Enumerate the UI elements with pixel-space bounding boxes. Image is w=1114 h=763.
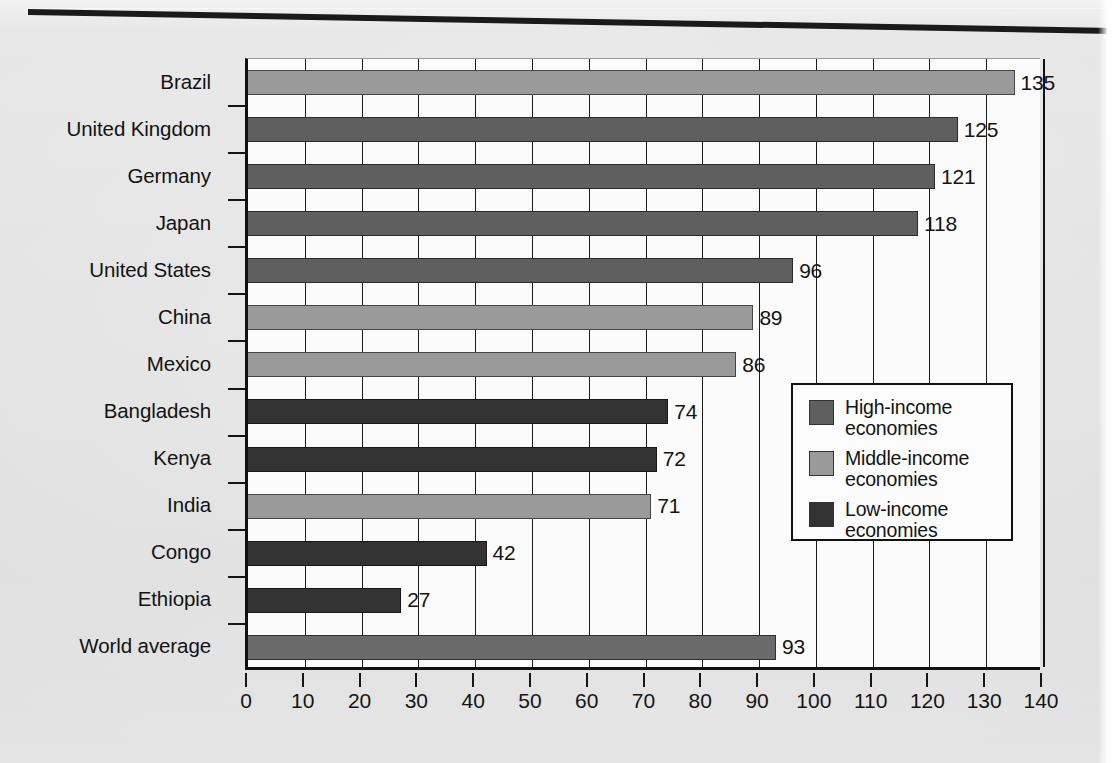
x-axis-tick bbox=[415, 673, 417, 687]
bar-value-label: 86 bbox=[742, 353, 765, 377]
y-axis-category-label: China bbox=[0, 293, 227, 340]
x-axis-tick bbox=[870, 673, 872, 687]
bar[interactable]: 27 bbox=[248, 588, 401, 613]
x-axis-tick bbox=[1040, 673, 1042, 687]
bar-row: 118 bbox=[248, 200, 1040, 247]
bar[interactable]: 96 bbox=[248, 258, 793, 283]
x-axis-tick-label: 90 bbox=[745, 689, 768, 713]
plot-area: 135125121118968986747271422793 bbox=[245, 58, 1040, 670]
y-axis-tick bbox=[228, 529, 245, 531]
x-axis-tick bbox=[359, 673, 361, 687]
x-axis-tick-label: 70 bbox=[632, 689, 655, 713]
x-axis-tick-label: 60 bbox=[575, 689, 598, 713]
bar-value-label: 121 bbox=[941, 165, 975, 189]
x-axis-tick bbox=[472, 673, 474, 687]
y-axis-tick bbox=[228, 388, 245, 390]
y-axis-category-label: India bbox=[0, 482, 227, 529]
bar[interactable]: 86 bbox=[248, 352, 736, 377]
x-axis-tick bbox=[699, 673, 701, 687]
legend-item[interactable]: Low-income economies bbox=[809, 499, 1011, 541]
x-axis-tick-label: 130 bbox=[967, 689, 1002, 713]
bar-value-label: 74 bbox=[674, 400, 697, 424]
x-axis-tick-label: 10 bbox=[291, 689, 314, 713]
x-axis-ticks bbox=[245, 673, 1045, 687]
y-axis-category-label: United States bbox=[0, 246, 227, 293]
x-axis-tick-label: 110 bbox=[854, 689, 887, 713]
bar-value-label: 93 bbox=[782, 635, 805, 659]
bar[interactable]: 72 bbox=[248, 447, 657, 472]
bar-row: 96 bbox=[248, 247, 1040, 294]
bar[interactable]: 42 bbox=[248, 541, 487, 566]
y-axis-tick bbox=[228, 152, 245, 154]
bar[interactable]: 121 bbox=[248, 164, 935, 189]
y-axis-ticks bbox=[228, 58, 245, 670]
bar[interactable]: 118 bbox=[248, 211, 918, 236]
x-axis-tick-labels: 0102030405060708090100110120130140 bbox=[245, 689, 1045, 719]
x-axis-tick-label: 40 bbox=[461, 689, 484, 713]
bar-value-label: 27 bbox=[407, 588, 430, 612]
y-axis-category-label: Brazil bbox=[0, 58, 227, 105]
x-axis-tick bbox=[756, 673, 758, 687]
bar[interactable]: 71 bbox=[248, 494, 651, 519]
y-axis-category-label: Congo bbox=[0, 529, 227, 576]
bar-row: 135 bbox=[248, 59, 1040, 106]
bar-row: 86 bbox=[248, 341, 1040, 388]
y-axis-category-label: Kenya bbox=[0, 435, 227, 482]
bar[interactable]: 74 bbox=[248, 399, 668, 424]
bar-rows: 135125121118968986747271422793 bbox=[248, 59, 1040, 667]
legend-swatch-icon bbox=[809, 400, 834, 425]
y-axis-tick bbox=[228, 623, 245, 625]
bar-row: 89 bbox=[248, 294, 1040, 341]
x-axis-tick-label: 50 bbox=[518, 689, 541, 713]
legend-swatch-icon bbox=[809, 451, 834, 476]
y-axis-tick bbox=[228, 576, 245, 578]
x-axis-tick bbox=[302, 673, 304, 687]
y-axis-tick bbox=[228, 105, 245, 107]
legend-item[interactable]: High-income economies bbox=[809, 397, 1011, 439]
bar-value-label: 125 bbox=[964, 118, 998, 142]
y-axis-category-label: Ethiopia bbox=[0, 576, 227, 623]
bar[interactable]: 89 bbox=[248, 305, 753, 330]
legend-swatch-icon bbox=[809, 502, 834, 527]
y-axis-category-label: Mexico bbox=[0, 340, 227, 387]
bar-row: 121 bbox=[248, 153, 1040, 200]
y-axis-tick bbox=[228, 482, 245, 484]
x-axis-tick bbox=[586, 673, 588, 687]
legend-item[interactable]: Middle-income economies bbox=[809, 448, 1011, 490]
bar-value-label: 89 bbox=[759, 306, 782, 330]
bar[interactable]: 93 bbox=[248, 635, 776, 660]
bar-row: 125 bbox=[248, 106, 1040, 153]
y-axis-tick bbox=[228, 199, 245, 201]
x-axis-tick-label: 80 bbox=[689, 689, 712, 713]
y-axis-tick bbox=[228, 246, 245, 248]
legend-label: Low-income economies bbox=[845, 499, 948, 541]
bar-row: 93 bbox=[248, 624, 1040, 671]
bar-value-label: 96 bbox=[799, 259, 822, 283]
bar-value-label: 42 bbox=[493, 541, 516, 565]
x-axis-tick bbox=[983, 673, 985, 687]
x-axis-tick-label: 30 bbox=[405, 689, 428, 713]
y-axis-category-labels: BrazilUnited KingdomGermanyJapanUnited S… bbox=[0, 58, 227, 670]
x-axis-tick bbox=[926, 673, 928, 687]
y-axis-category-label: Bangladesh bbox=[0, 387, 227, 434]
x-axis-tick-label: 20 bbox=[348, 689, 371, 713]
y-axis-category-label: United Kingdom bbox=[0, 105, 227, 152]
bar[interactable]: 125 bbox=[248, 117, 958, 142]
bar[interactable]: 135 bbox=[248, 70, 1015, 95]
chart-legend: High-income economiesMiddle-income econo… bbox=[791, 383, 1013, 541]
x-axis-tick-label: 140 bbox=[1023, 689, 1058, 713]
x-axis-tick bbox=[643, 673, 645, 687]
bar-row: 27 bbox=[248, 577, 1040, 624]
legend-label: Middle-income economies bbox=[845, 448, 969, 490]
bar-value-label: 71 bbox=[657, 494, 680, 518]
x-axis-tick bbox=[529, 673, 531, 687]
y-axis-tick bbox=[228, 340, 245, 342]
bar-value-label: 72 bbox=[663, 447, 686, 471]
y-axis-category-label: Germany bbox=[0, 152, 227, 199]
y-axis-tick bbox=[228, 435, 245, 437]
bar-value-label: 135 bbox=[1021, 71, 1055, 95]
y-axis-tick bbox=[228, 293, 245, 295]
y-axis-category-label: World average bbox=[0, 623, 227, 670]
y-axis-category-label: Japan bbox=[0, 199, 227, 246]
x-axis-tick bbox=[813, 673, 815, 687]
